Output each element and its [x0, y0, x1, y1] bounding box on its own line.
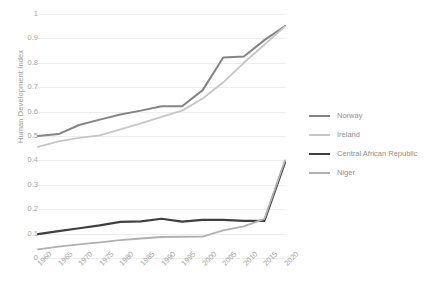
- y-tick-label: 0.1: [12, 230, 38, 238]
- legend-swatch-icon: [309, 153, 330, 155]
- legend-item[interactable]: Niger: [309, 163, 427, 182]
- y-tick-label: 0.7: [12, 83, 38, 91]
- chart-legend: NorwayIrelandCentral African RepublicNig…: [309, 106, 427, 182]
- y-tick-label: 0.5: [12, 132, 38, 140]
- series-line: [38, 162, 285, 234]
- legend-item[interactable]: Central African Republic: [309, 144, 427, 163]
- y-axis-tick-labels: 00.10.20.30.40.50.60.70.80.91: [8, 0, 38, 294]
- legend-swatch-icon: [309, 134, 330, 136]
- legend-item[interactable]: Ireland: [309, 125, 427, 144]
- plot-area: [38, 14, 285, 258]
- legend-swatch-icon: [309, 172, 330, 174]
- series-line: [38, 160, 285, 249]
- line-chart: Human Development Index 00.10.20.30.40.5…: [0, 0, 427, 294]
- y-tick-label: 0.6: [12, 108, 38, 116]
- legend-label: Norway: [337, 111, 362, 120]
- series-line: [38, 26, 285, 136]
- x-tick-label: 2020: [283, 250, 300, 267]
- legend-swatch-icon: [309, 115, 330, 117]
- y-tick-label: 0.8: [12, 59, 38, 67]
- legend-label: Ireland: [337, 130, 360, 139]
- legend-label: Central African Republic: [337, 149, 417, 158]
- legend-label: Niger: [337, 168, 355, 177]
- y-tick-label: 0: [12, 254, 38, 262]
- y-tick-label: 0.3: [12, 181, 38, 189]
- y-tick-label: 0.2: [12, 205, 38, 213]
- y-tick-label: 0.9: [12, 34, 38, 42]
- series-line: [38, 26, 285, 147]
- y-tick-label: 1: [12, 10, 38, 18]
- series-lines: [38, 14, 285, 258]
- y-tick-label: 0.4: [12, 156, 38, 164]
- x-axis-tick-labels: 1960196519701975198019851990199520002005…: [38, 259, 285, 294]
- legend-item[interactable]: Norway: [309, 106, 427, 125]
